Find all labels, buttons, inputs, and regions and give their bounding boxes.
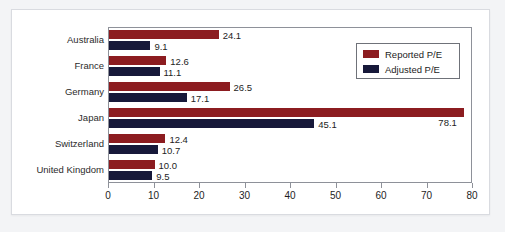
- figure-root: AustraliaFranceGermanyJapanSwitzerlandUn…: [0, 0, 505, 232]
- bar-value-label: 45.1: [318, 120, 337, 129]
- bar-adjusted[interactable]: [109, 41, 150, 50]
- bar-reported[interactable]: [109, 82, 230, 91]
- x-axis-tick-label: 80: [466, 190, 477, 201]
- bar-group: 12.410.7: [109, 134, 473, 154]
- x-axis-tick-label: 30: [239, 190, 250, 201]
- bar-reported[interactable]: [109, 160, 155, 169]
- x-axis: 01020304050607080: [108, 183, 473, 207]
- x-axis-tick-label: 70: [421, 190, 432, 201]
- bar-adjusted[interactable]: [109, 171, 152, 180]
- legend-swatch-reported-icon: [363, 50, 379, 58]
- legend-item-reported: Reported P/E: [363, 47, 442, 61]
- x-axis-tick: [199, 183, 200, 188]
- bar-value-label: 12.6: [170, 57, 189, 66]
- x-axis-tick: [472, 183, 473, 188]
- bar-reported[interactable]: [109, 30, 219, 39]
- category-label: Switzerland: [14, 138, 104, 149]
- category-axis-labels: AustraliaFranceGermanyJapanSwitzerlandUn…: [14, 27, 104, 183]
- bar-reported[interactable]: [109, 108, 464, 117]
- bar-adjusted[interactable]: [109, 145, 158, 154]
- x-axis-tick: [381, 183, 382, 188]
- x-axis-tick-label: 20: [193, 190, 204, 201]
- bar-value-label: 10.0: [159, 161, 178, 170]
- category-label: United Kingdom: [14, 164, 104, 175]
- bar-adjusted[interactable]: [109, 119, 314, 128]
- bar-reported[interactable]: [109, 56, 166, 65]
- bar-value-label: 12.4: [169, 135, 188, 144]
- x-axis-tick: [154, 183, 155, 188]
- category-label: Australia: [14, 34, 104, 45]
- x-axis-tick-label: 40: [284, 190, 295, 201]
- bar-group: 78.145.1: [109, 108, 473, 128]
- legend-swatch-adjusted-icon: [363, 65, 379, 73]
- legend-label-adjusted: Adjusted P/E: [385, 64, 440, 75]
- bar-chart: AustraliaFranceGermanyJapanSwitzerlandUn…: [0, 0, 505, 232]
- x-axis-tick-label: 50: [330, 190, 341, 201]
- legend-item-adjusted: Adjusted P/E: [363, 62, 440, 76]
- x-axis-tick: [108, 183, 109, 188]
- x-axis-tick-label: 60: [375, 190, 386, 201]
- x-axis-tick-label: 0: [105, 190, 111, 201]
- bar-value-label: 9.1: [154, 42, 167, 51]
- chart-legend: Reported P/E Adjusted P/E: [356, 43, 460, 79]
- bar-adjusted[interactable]: [109, 67, 160, 76]
- category-label: Japan: [14, 112, 104, 123]
- legend-label-reported: Reported P/E: [385, 49, 442, 60]
- x-axis-tick: [245, 183, 246, 188]
- bar-value-label: 26.5: [234, 83, 253, 92]
- bar-group: 26.517.1: [109, 82, 473, 102]
- x-axis-tick: [336, 183, 337, 188]
- bar-reported[interactable]: [109, 134, 165, 143]
- bar-value-label: 11.1: [164, 68, 182, 77]
- bar-value-label: 10.7: [162, 146, 181, 155]
- bar-value-label: 9.5: [156, 172, 169, 181]
- x-axis-tick: [427, 183, 428, 188]
- bar-adjusted[interactable]: [109, 93, 187, 102]
- bar-value-label: 78.1: [438, 118, 457, 127]
- x-axis-tick-label: 10: [148, 190, 159, 201]
- bar-group: 10.09.5: [109, 160, 473, 180]
- bar-value-label: 17.1: [191, 94, 210, 103]
- category-label: Germany: [14, 86, 104, 97]
- x-axis-tick: [290, 183, 291, 188]
- category-label: France: [14, 60, 104, 71]
- bar-value-label: 24.1: [223, 31, 242, 40]
